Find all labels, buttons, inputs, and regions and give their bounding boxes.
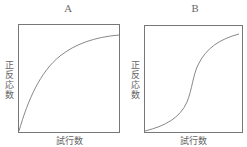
panel-a-xlabel: 試行数 xyxy=(49,134,89,147)
panel-a-title: A xyxy=(58,3,78,14)
panel-b-title: B xyxy=(185,3,205,14)
panel-b-xlabel: 試行数 xyxy=(173,134,213,147)
panel-b-curve xyxy=(145,34,239,131)
panel-a-curve xyxy=(19,35,119,131)
figure-canvas xyxy=(0,0,247,147)
panel-b-ylabel: 正反応数 xyxy=(130,60,140,100)
panel-a-ylabel: 正反応数 xyxy=(4,60,14,100)
panel-a-frame xyxy=(19,25,120,133)
